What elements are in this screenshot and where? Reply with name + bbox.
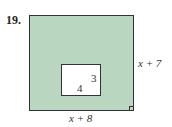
outer-width-label: x + 8 bbox=[69, 112, 92, 124]
inner-width-label: 4 bbox=[77, 82, 83, 94]
inner-height-label: 3 bbox=[91, 72, 97, 84]
outer-height-label: x + 7 bbox=[138, 57, 161, 69]
problem-number: 19. bbox=[6, 13, 21, 28]
outer-rectangle bbox=[29, 15, 134, 111]
right-angle-marker-icon bbox=[129, 106, 134, 111]
